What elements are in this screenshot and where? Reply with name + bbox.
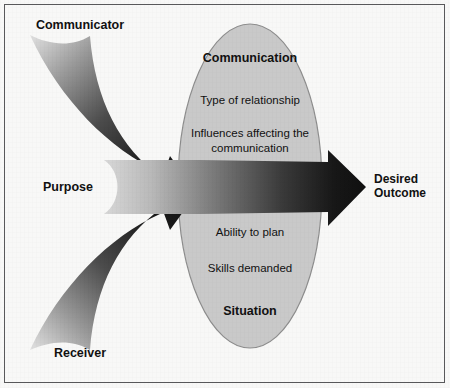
ellipse-item-type-of-relationship: Type of relationship [200,94,300,106]
label-purpose: Purpose [43,180,93,194]
label-desired-outcome-line2: Outcome [374,186,426,200]
ellipse-heading-communication: Communication [203,51,297,65]
diagram-figure: Communicator Purpose Receiver Communicat… [0,0,450,388]
communication-model-diagram: Communicator Purpose Receiver Communicat… [0,0,450,388]
ellipse-heading-situation: Situation [223,304,276,318]
label-communicator: Communicator [36,18,124,32]
ellipse-item-influences-line1: Influences affecting the [191,127,309,139]
label-desired-outcome-line1: Desired [374,172,418,186]
ellipse-item-skills-demanded: Skills demanded [208,262,292,274]
ellipse-item-influences-line2: communication [211,142,288,154]
ellipse-item-ability-to-plan: Ability to plan [216,226,284,238]
label-receiver: Receiver [54,346,106,360]
